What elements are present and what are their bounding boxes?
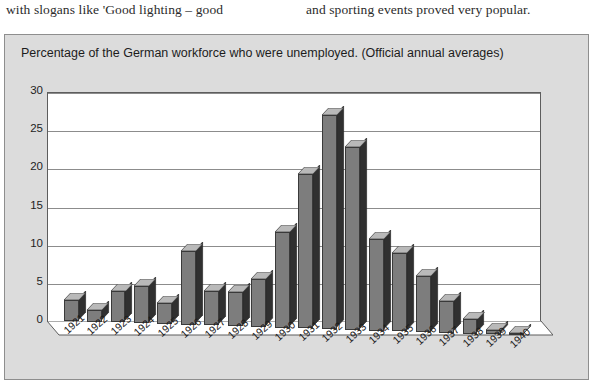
plot-wrapper: 051015202530 192119221923192419251926192… bbox=[5, 35, 590, 381]
x-tick-label-1936: 1936 bbox=[413, 322, 438, 347]
x-tick-label-1940: 1940 bbox=[507, 325, 532, 350]
x-tick-label-1929: 1929 bbox=[249, 317, 274, 342]
book-text-right-column: and sporting events proved very popular. bbox=[306, 2, 530, 18]
x-tick-label-1934: 1934 bbox=[366, 321, 391, 346]
x-tick-label-1939: 1939 bbox=[483, 325, 508, 350]
x-tick-label-1935: 1935 bbox=[390, 322, 415, 347]
x-tick-label-1938: 1938 bbox=[460, 324, 485, 349]
x-tick-label-1933: 1933 bbox=[343, 320, 368, 345]
plot-area bbox=[47, 92, 541, 321]
chart-figure: Percentage of the German workforce who w… bbox=[4, 34, 589, 380]
y-tick-label-5: 5 bbox=[17, 275, 43, 287]
y-tick-label-15: 15 bbox=[17, 199, 43, 211]
book-page-text: with slogans like 'Good lighting – good … bbox=[0, 0, 593, 30]
book-text-left-column: with slogans like 'Good lighting – good bbox=[6, 2, 223, 18]
y-tick-label-30: 30 bbox=[17, 84, 43, 96]
gridline-5 bbox=[48, 284, 540, 285]
gridline-30 bbox=[48, 93, 540, 94]
gridline-15 bbox=[48, 208, 540, 209]
x-tick-label-1932: 1932 bbox=[319, 319, 344, 344]
y-tick-label-10: 10 bbox=[17, 237, 43, 249]
x-tick-label-1930: 1930 bbox=[272, 318, 297, 343]
x-tick-label-1931: 1931 bbox=[296, 319, 321, 344]
gridline-20 bbox=[48, 169, 540, 170]
x-axis-labels: 1921192219231924192519261927192819291930… bbox=[5, 321, 590, 381]
y-axis: 051015202530 bbox=[13, 92, 43, 321]
y-tick-label-25: 25 bbox=[17, 122, 43, 134]
y-tick-label-20: 20 bbox=[17, 160, 43, 172]
x-tick-label-1928: 1928 bbox=[225, 317, 250, 342]
gridline-25 bbox=[48, 131, 540, 132]
x-tick-label-1937: 1937 bbox=[436, 323, 461, 348]
gridline-10 bbox=[48, 246, 540, 247]
